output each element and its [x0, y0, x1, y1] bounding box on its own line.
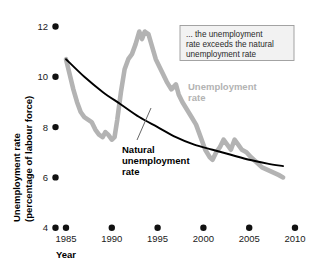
y-tick-label-10: 10 [37, 71, 48, 82]
natural-rate-label-line3: rate [122, 166, 139, 177]
y-tick-dot-4 [52, 225, 58, 231]
x-tick-label-2005: 2005 [239, 233, 260, 244]
x-tick-label-1985: 1985 [55, 233, 76, 244]
unemployment-rate-label-line2: rate [188, 92, 205, 103]
x-tick-dot-2000 [200, 225, 206, 231]
y-tick-dot-12 [52, 23, 58, 29]
y-tick-label-8: 8 [43, 122, 48, 133]
chart-figure: 12 10 8 6 4 1985 1990 1995 2000 2005 201… [0, 0, 315, 271]
callout-annotation: ... the unemployment rate exceeds the na… [180, 26, 294, 61]
y-axis-title-line1: Unemployment rate [11, 133, 22, 222]
y-tick-dot-6 [52, 174, 58, 180]
y-tick-dot-8 [52, 124, 58, 130]
unemployment-rate-chart: 12 10 8 6 4 1985 1990 1995 2000 2005 201… [0, 0, 315, 271]
callout-line-3: unemployment rate [186, 50, 257, 59]
x-tick-label-1990: 1990 [101, 233, 122, 244]
callout-line-1: ... the unemployment [186, 30, 263, 39]
x-tick-label-2010: 2010 [284, 233, 305, 244]
y-tick-label-6: 6 [43, 172, 48, 183]
y-tick-label-12: 12 [37, 21, 48, 32]
natural-rate-label-line1: Natural [122, 144, 155, 155]
x-axis-title: Year [56, 249, 76, 260]
x-tick-dot-1995 [154, 225, 160, 231]
y-axis-title-line2: (percentage of labour force) [23, 96, 34, 222]
x-tick-label-2000: 2000 [193, 233, 214, 244]
x-tick-dot-2005 [246, 225, 252, 231]
callout-line-2: rate exceeds the natural [186, 40, 274, 49]
x-tick-label-1995: 1995 [147, 233, 168, 244]
x-tick-dot-1990 [109, 225, 115, 231]
unemployment-rate-label-line1: Unemployment [188, 81, 257, 92]
x-tick-dot-1985 [63, 225, 69, 231]
x-tick-dot-2010 [292, 225, 298, 231]
y-tick-label-4: 4 [43, 222, 48, 233]
natural-rate-label-line2: unemployment [122, 155, 190, 166]
y-tick-dot-10 [52, 74, 58, 80]
